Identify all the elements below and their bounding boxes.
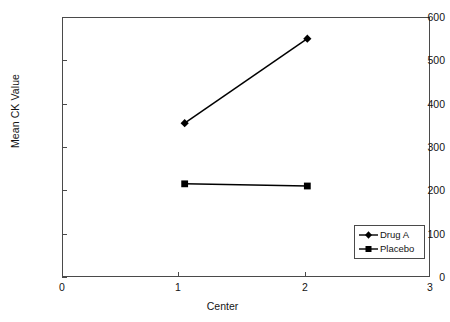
legend[interactable]: Drug A Placebo bbox=[354, 225, 425, 259]
y-tick-label-600: 600 bbox=[399, 11, 445, 23]
x-tick-label-1: 1 bbox=[158, 281, 198, 293]
y-tick-label-500: 500 bbox=[399, 54, 445, 66]
legend-label-drug-a: Drug A bbox=[379, 229, 409, 241]
legend-item-drug-a[interactable]: Drug A bbox=[358, 228, 421, 242]
x-tick-label-0: 0 bbox=[42, 281, 82, 293]
square-marker-icon bbox=[358, 243, 379, 255]
x-tick-label-2: 2 bbox=[285, 281, 325, 293]
x-tick-mark bbox=[305, 272, 306, 277]
y-tick-label-400: 400 bbox=[399, 98, 445, 110]
y-tick-mark bbox=[62, 277, 67, 278]
y-tick-mark bbox=[62, 60, 67, 61]
diamond-marker-icon bbox=[358, 229, 379, 241]
y-tick-label-300: 300 bbox=[399, 141, 445, 153]
y-tick-mark bbox=[62, 234, 67, 235]
y-tick-mark bbox=[62, 147, 67, 148]
y-tick-mark bbox=[62, 190, 67, 191]
y-tick-mark bbox=[62, 17, 67, 18]
y-axis-title: Mean CK Value bbox=[9, 56, 21, 166]
legend-label-placebo: Placebo bbox=[379, 243, 414, 255]
x-tick-mark bbox=[178, 272, 179, 277]
x-axis-title: Center bbox=[0, 300, 445, 312]
y-tick-mark bbox=[62, 104, 67, 105]
x-tick-label-3: 3 bbox=[410, 281, 450, 293]
y-tick-label-200: 200 bbox=[399, 184, 445, 196]
legend-item-placebo[interactable]: Placebo bbox=[358, 242, 421, 256]
